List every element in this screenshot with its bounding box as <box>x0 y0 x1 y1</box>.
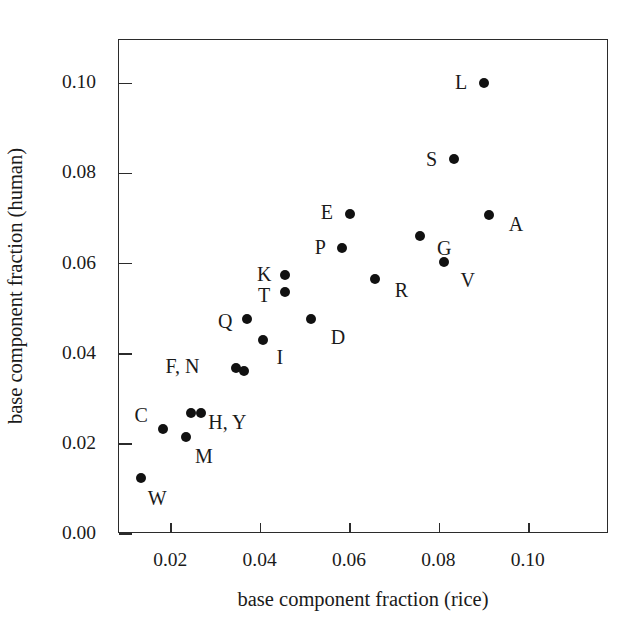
data-point-S <box>449 154 459 164</box>
point-label-G: G <box>437 238 451 258</box>
point-label-R: R <box>395 280 408 300</box>
data-point-Q <box>242 314 252 324</box>
point-label-D: D <box>331 327 345 347</box>
point-label-I: I <box>276 347 283 367</box>
point-label-S: S <box>426 149 437 169</box>
point-label-H: H, Y <box>208 412 246 432</box>
data-point-H <box>186 408 196 418</box>
data-point-M <box>181 432 191 442</box>
data-point-N <box>239 366 249 376</box>
y-axis-title: base component fraction (human) <box>4 148 27 424</box>
data-point-C <box>158 424 168 434</box>
data-point-P <box>337 243 347 253</box>
plot-frame: WCMH, YF, NQITKDPERGVSLA <box>118 39 608 533</box>
point-label-V: V <box>461 270 475 290</box>
point-label-A: A <box>509 214 523 234</box>
data-point-T <box>280 287 290 297</box>
data-point-R <box>370 274 380 284</box>
point-label-M: M <box>195 446 213 466</box>
data-point-Y <box>196 408 206 418</box>
point-label-K: K <box>257 264 271 284</box>
data-point-D <box>306 314 316 324</box>
x-tick-label-0.04: 0.04 <box>243 550 277 570</box>
x-axis-title: base component fraction (rice) <box>118 588 608 611</box>
data-point-G <box>415 231 425 241</box>
scatter-plot-figure: WCMH, YF, NQITKDPERGVSLA 0.020.040.060.0… <box>0 0 641 638</box>
x-tick-label-0.02: 0.02 <box>153 550 187 570</box>
x-tick-0.10 <box>528 523 530 532</box>
y-tick-0.04 <box>119 353 132 355</box>
point-label-T: T <box>258 285 270 305</box>
point-label-W: W <box>148 488 167 508</box>
x-tick-label-0.10: 0.10 <box>511 550 545 570</box>
data-point-L <box>479 78 489 88</box>
point-label-F: F, N <box>165 356 199 376</box>
y-tick-0.08 <box>119 173 132 175</box>
point-label-L: L <box>455 72 467 92</box>
y-axis-title-wrapper: base component fraction (human) <box>0 39 30 533</box>
y-tick-0.06 <box>119 263 132 265</box>
x-tick-label-0.08: 0.08 <box>421 550 455 570</box>
data-point-K <box>280 270 290 280</box>
x-tick-label-0.06: 0.06 <box>332 550 366 570</box>
point-label-E: E <box>321 202 333 222</box>
data-point-E <box>345 209 355 219</box>
x-tick-0.08 <box>439 523 441 532</box>
point-label-Q: Q <box>218 311 232 331</box>
point-label-C: C <box>134 405 147 425</box>
x-tick-0.06 <box>349 523 351 532</box>
y-tick-0.00 <box>119 533 132 535</box>
data-point-I <box>258 335 268 345</box>
data-point-V <box>439 257 449 267</box>
data-point-W <box>136 473 146 483</box>
x-tick-0.04 <box>260 523 262 532</box>
y-tick-0.10 <box>119 83 132 85</box>
data-point-A <box>484 210 494 220</box>
y-tick-0.02 <box>119 443 132 445</box>
x-tick-0.02 <box>170 523 172 532</box>
point-label-P: P <box>315 237 326 257</box>
